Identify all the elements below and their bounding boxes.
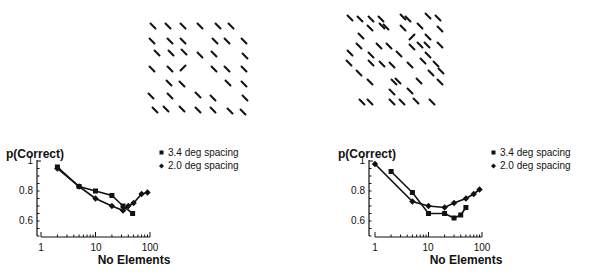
line-element <box>198 24 203 29</box>
square-marker <box>130 211 135 216</box>
y-axis-label: p(Correct) <box>338 147 396 161</box>
line-element <box>358 17 363 22</box>
line-element <box>369 61 374 66</box>
line-element <box>426 53 431 58</box>
line-element <box>181 24 186 29</box>
line-element <box>168 94 173 99</box>
legend: 3.4 deg spacing 2.0 deg spacing <box>159 147 239 171</box>
x-tick-label: 100 <box>474 242 491 253</box>
square-marker <box>389 169 394 174</box>
line-element <box>242 39 247 44</box>
line-element <box>430 100 435 105</box>
line-element <box>390 63 395 68</box>
line-element <box>390 100 395 105</box>
line-element <box>379 17 384 22</box>
line-element <box>436 16 441 21</box>
line-element <box>196 93 201 98</box>
legend-label: 2.0 deg spacing <box>500 160 571 171</box>
line-element <box>400 100 405 105</box>
diamond-marker <box>441 204 447 210</box>
line-element <box>168 67 173 72</box>
line-element <box>396 79 401 84</box>
line-element <box>211 96 216 101</box>
line-element <box>410 35 415 40</box>
line-element <box>242 67 247 72</box>
line-element <box>360 100 365 105</box>
line-element <box>434 62 439 67</box>
x-tick-label: 100 <box>142 242 159 253</box>
line-element <box>418 24 423 29</box>
y-tick-label: 0.6 <box>19 215 33 226</box>
legend-label: 3.4 deg spacing <box>168 147 239 158</box>
line-element <box>417 79 422 84</box>
line-element <box>368 100 373 105</box>
line-element <box>421 59 426 64</box>
line-element <box>182 50 187 55</box>
square-marker <box>426 211 431 216</box>
x-tick-label: 1 <box>372 242 378 253</box>
chart-right: p(Correct) 1 0.8 0.6 1 10 100 No Element… <box>338 147 571 267</box>
line-element <box>228 109 233 114</box>
line-element <box>181 39 186 44</box>
legend-diamond-marker <box>491 164 496 169</box>
line-element <box>166 24 171 29</box>
line-element <box>211 108 216 113</box>
line-element <box>369 17 374 22</box>
x-tick-label: 1 <box>38 242 44 253</box>
x-axis-label: No Elements <box>430 253 503 267</box>
line-element <box>153 108 158 113</box>
legend-square-marker <box>160 151 164 155</box>
line-element <box>368 80 373 85</box>
line-element <box>155 51 160 56</box>
y-tick-label: 1 <box>27 155 33 166</box>
line-element <box>180 107 185 112</box>
line-element <box>368 26 373 31</box>
line-element <box>369 53 374 58</box>
figure: p(Correct) 1 0.8 0.6 1 10 100 No Element… <box>0 0 591 278</box>
line-element <box>243 54 248 59</box>
line-element <box>196 108 201 113</box>
line-element <box>243 96 248 101</box>
x-tick-label: 10 <box>90 242 102 253</box>
line-element <box>401 26 406 31</box>
line-element <box>168 39 173 44</box>
line-element <box>225 39 230 44</box>
line-element <box>213 39 218 44</box>
line-element <box>414 99 419 104</box>
x-axis-label: No Elements <box>98 253 171 267</box>
stimulus-left <box>149 24 248 115</box>
line-element <box>357 44 362 49</box>
line-element <box>180 82 185 87</box>
square-marker <box>109 193 114 198</box>
y-tick-label: 0.8 <box>19 185 33 196</box>
diamond-marker <box>451 200 457 206</box>
line-element <box>229 24 234 29</box>
line-element <box>438 27 443 32</box>
line-element <box>212 67 217 72</box>
diamond-marker <box>109 203 115 209</box>
y-tick-label: 0.8 <box>351 185 365 196</box>
chart-left: p(Correct) 1 0.8 0.6 1 10 100 No Element… <box>6 147 239 267</box>
plot-area <box>372 161 483 221</box>
line-element <box>397 52 402 57</box>
line-element <box>392 80 397 85</box>
line-element <box>347 61 352 66</box>
line-element <box>167 81 172 86</box>
legend-diamond-marker <box>159 164 164 169</box>
x-tick-label: 10 <box>422 242 434 253</box>
line-element <box>225 67 230 72</box>
line-element <box>348 51 353 56</box>
line-element <box>169 51 174 56</box>
line-element <box>439 69 444 74</box>
line-element <box>387 44 392 49</box>
line-element <box>418 43 423 48</box>
line-element <box>408 89 413 94</box>
line-element <box>438 43 443 48</box>
line-element <box>408 63 413 68</box>
line-element <box>241 110 246 115</box>
diamond-marker <box>144 189 150 195</box>
line-element <box>198 53 203 58</box>
diamond-marker <box>463 195 469 201</box>
line-element <box>226 81 231 86</box>
line-element <box>429 71 434 76</box>
